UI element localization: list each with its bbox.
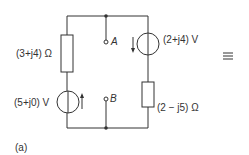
terminal-b-label: B — [110, 94, 117, 104]
terminal-a-label: A — [111, 37, 118, 47]
right-impedance-resistor — [142, 82, 154, 107]
terminal-a — [104, 40, 108, 44]
terminal-b — [104, 97, 108, 101]
left-impedance-resistor — [61, 35, 73, 72]
circuit-diagram — [0, 0, 249, 155]
left-impedance-label: (3+j4) Ω — [16, 49, 52, 59]
figure-caption: (a) — [15, 143, 27, 153]
right-impedance-label: (2 − j5) Ω — [157, 103, 199, 113]
equivalence-icon — [223, 53, 233, 59]
right-source-label: (2+j4) V — [163, 35, 198, 45]
left-source-label: (5+j0) V — [14, 98, 49, 108]
